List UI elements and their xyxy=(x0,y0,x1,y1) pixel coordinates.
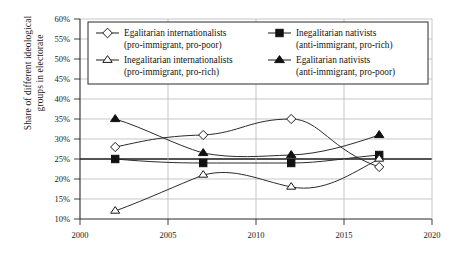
x-tick-label: 2010 xyxy=(248,230,265,240)
legend-label: Inegalitarian nativists xyxy=(296,28,377,38)
y-tick-labels: 60% 55% 50% 45% 40% 35% 30% 25% 20% 15% … xyxy=(54,14,70,224)
x-tick-labels: 2000 2005 2010 2015 2020 xyxy=(72,230,441,240)
y-tick-marks xyxy=(74,19,80,219)
y-tick-label: 40% xyxy=(54,94,70,104)
x-tick-label: 2005 xyxy=(160,230,177,240)
chart-figure: Share of different ideological groups in… xyxy=(0,0,451,256)
chart-canvas: 60% 55% 50% 45% 40% 35% 30% 25% 20% 15% … xyxy=(0,0,451,256)
x-tick-marks xyxy=(80,219,432,225)
y-tick-label: 30% xyxy=(54,134,70,144)
y-tick-label: 35% xyxy=(54,114,70,124)
y-tick-label: 50% xyxy=(54,54,70,64)
legend-sublabel: (anti-immigrant, pro-poor) xyxy=(296,67,395,78)
y-tick-label: 55% xyxy=(54,34,70,44)
y-tick-label: 60% xyxy=(54,14,70,24)
legend-label: Egalitarian internationalists xyxy=(124,28,227,38)
legend-sublabel: (pro-immigrant, pro-rich) xyxy=(124,67,219,78)
y-tick-label: 45% xyxy=(54,74,70,84)
series-egalitarian-nativists xyxy=(111,115,384,158)
legend-label: Inegalitarian internationalists xyxy=(124,55,233,65)
y-tick-label: 15% xyxy=(54,194,70,204)
legend-sublabel: (pro-immigrant, pro-poor) xyxy=(124,40,222,51)
x-tick-label: 2015 xyxy=(336,230,353,240)
y-tick-label: 10% xyxy=(54,214,70,224)
y-tick-label: 25% xyxy=(54,154,70,164)
x-tick-label: 2000 xyxy=(72,230,89,240)
x-tick-label: 2020 xyxy=(424,230,441,240)
y-tick-label: 20% xyxy=(54,174,70,184)
filled-square-icon xyxy=(276,29,283,36)
legend-label: Egalitarian nativists xyxy=(296,55,370,65)
legend-sublabel: (anti-immigrant, pro-rich) xyxy=(296,40,393,51)
chart-legend: Egalitarian internationalists (pro-immig… xyxy=(88,22,428,84)
